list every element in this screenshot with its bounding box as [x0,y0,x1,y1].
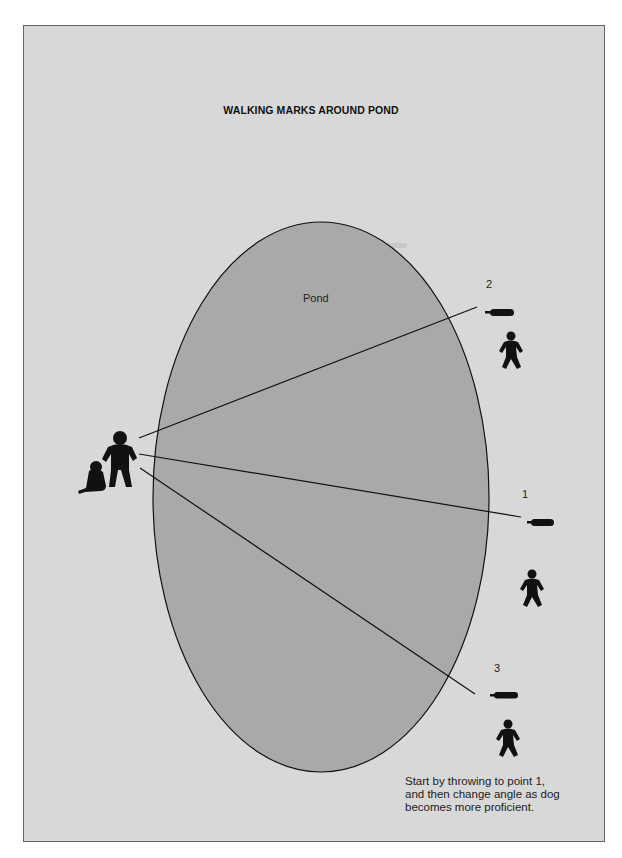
thrower-figure-icon-3 [496,720,520,758]
dummy-icon-2 [485,309,514,316]
handler-figure-icon [102,431,137,487]
caption-line: and then change angle as dog [405,788,605,801]
instruction-caption: Start by throwing to point 1, and then c… [405,775,605,814]
dog-icon [78,461,106,494]
caption-line: becomes more proficient. [405,801,605,814]
thrower-figure-icon-1 [520,570,544,608]
caption-line: Start by throwing to point 1, [405,775,605,788]
diagram-canvas [0,0,622,858]
dummy-icon-3 [490,692,518,699]
thrower-figure-icon-2 [499,332,523,370]
mark-label-2: 2 [486,278,492,290]
pond-label: Pond [303,292,329,304]
dummy-icon-1 [527,519,554,526]
mark-label-3: 3 [494,662,500,674]
pond-shape [153,222,489,772]
mark-label-1: 1 [522,488,528,500]
